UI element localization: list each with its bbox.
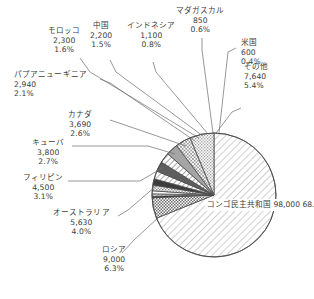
slice-label-other: その他 7,640 5.4% [244,62,268,91]
leader-line-philippines [68,167,164,181]
slice-label-other-percent: 5.4% [244,81,268,91]
leader-line-madagascar [202,38,213,133]
slice-label-cuba: キューバ 3,800 2.7% [32,138,64,167]
slice-label-morocco-value: 2,300 [48,36,80,46]
slice-label-png-value: 2,940 [14,80,87,90]
slice-label-russia: ロシア 9,000 6.3% [102,245,126,274]
slice-label-congo: コンゴ民主共和国 98,000 68.9% [205,199,314,211]
slice-label-morocco-name: モロッコ [48,26,80,36]
slice-label-indonesia: インドネシア 1,100 0.8% [127,21,176,50]
slice-label-australia-value: 5,630 [53,218,110,228]
slice-label-congo-percent: 68.9% [302,200,314,209]
slice-label-cuba-percent: 2.7% [32,157,64,167]
leader-line-morocco [80,58,199,138]
leader-line-russia [122,216,160,253]
slice-label-morocco-percent: 1.6% [48,45,80,55]
slice-label-philippines-percent: 3.1% [23,192,64,202]
slice-label-australia-name: オーストラリア [53,208,110,218]
leader-line-indonesia [153,62,208,134]
slice-label-indonesia-percent: 0.8% [127,40,176,50]
slice-label-usa-name: 米国 [241,38,261,48]
slice-label-china: 中国 2,200 1.5% [90,21,112,50]
slice-label-usa-value: 600 [241,48,261,58]
slice-label-indonesia-name: インドネシア [127,21,176,31]
slice-label-congo-name: コンゴ民主共和国 [207,200,271,209]
slice-label-china-name: 中国 [90,21,112,31]
slice-label-morocco: モロッコ 2,300 1.6% [48,26,80,55]
slice-label-russia-value: 9,000 [102,255,126,265]
leader-line-cuba [72,146,175,154]
slice-label-china-value: 2,200 [90,31,112,41]
slice-label-png: パプアニューギニア 2,940 2.1% [14,70,87,99]
pie-slices [152,133,276,257]
slice-label-other-value: 7,640 [244,72,268,82]
slice-label-cuba-name: キューバ [32,138,64,148]
slice-label-madagascar-name: マダガスカル [176,6,225,16]
slice-label-china-percent: 1.5% [90,40,112,50]
slice-label-png-percent: 2.1% [14,89,87,99]
slice-label-congo-value: 98,000 [273,200,300,209]
slice-label-indonesia-value: 1,100 [127,31,176,41]
slice-label-png-name: パプアニューギニア [14,70,87,80]
slice-label-australia-percent: 4.0% [53,227,110,237]
slice-label-canada: カナダ 3,690 2.6% [68,110,92,139]
slice-label-australia: オーストラリア 5,630 4.0% [53,208,110,237]
slice-label-canada-name: カナダ [68,110,92,120]
leader-line-australia [118,186,156,216]
slice-label-philippines-name: フィリピン [23,173,64,183]
slice-label-other-name: その他 [244,62,268,72]
slice-label-canada-value: 3,690 [68,120,92,130]
slice-label-philippines-value: 4,500 [23,183,64,193]
pie-chart-figure: マダガスカル 850 0.6% 米国 600 0.4% その他 7,640 5.… [0,0,314,299]
leader-line-canada [110,120,186,146]
slice-label-madagascar-percent: 0.6% [176,25,225,35]
slice-label-philippines: フィリピン 4,500 3.1% [23,173,64,202]
slice-label-russia-name: ロシア [102,245,126,255]
slice-label-canada-percent: 2.6% [68,129,92,139]
leader-line-png [100,79,195,141]
slice-label-russia-percent: 6.3% [102,264,126,274]
slice-label-madagascar-value: 850 [176,16,225,26]
slice-label-cuba-value: 3,800 [32,148,64,158]
leader-line-usa [219,48,236,133]
slice-label-madagascar: マダガスカル 850 0.6% [176,6,225,35]
